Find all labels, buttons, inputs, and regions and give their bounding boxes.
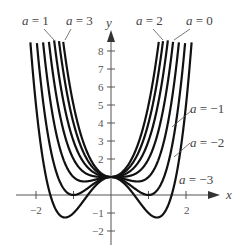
y-tick-label: 4 <box>98 117 104 129</box>
y-tick-label: −2 <box>92 225 104 237</box>
annotation-am2: a = −2 <box>190 135 224 150</box>
annotation-a0: a = 0 <box>186 13 213 28</box>
y-tick-label: 8 <box>98 45 104 57</box>
annotation-am3: a = −3 <box>179 172 213 187</box>
y-axis-label: y <box>104 15 112 30</box>
annotation-am1: a = −1 <box>190 101 224 116</box>
annotation-a1: a = 1 <box>22 13 49 28</box>
y-tick-label: −1 <box>92 207 104 219</box>
y-axis-arrow-icon <box>107 30 115 42</box>
annotation-a3: a = 3 <box>66 13 93 28</box>
y-tick-label: 2 <box>98 153 104 165</box>
y-tick-label: 7 <box>98 63 104 75</box>
y-tick-label: 5 <box>98 99 104 111</box>
annotation-a2: a = 2 <box>136 13 163 28</box>
x-tick-label: −2 <box>30 204 42 216</box>
x-tick-label: 2 <box>184 204 190 216</box>
chart: x y −2 2 8 7 6 5 4 3 2 −1 −2 a = 1 a = 3… <box>0 0 243 251</box>
y-tick-label: 3 <box>98 135 104 147</box>
x-axis-label: x <box>225 187 232 202</box>
y-tick-label: 6 <box>98 81 104 93</box>
plot-area: x y −2 2 8 7 6 5 4 3 2 −1 −2 a = 1 a = 3… <box>0 0 243 251</box>
x-axis-arrow-icon <box>208 191 220 199</box>
